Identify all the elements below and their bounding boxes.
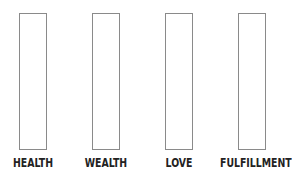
health-label: HEALTH (9, 155, 57, 170)
health-column-box (19, 13, 47, 150)
fulfillment-column-box (238, 13, 266, 150)
love-label: LOVE (155, 155, 203, 170)
fulfillment-label: FULFILLMENT (220, 155, 284, 170)
wealth-label: WEALTH (82, 155, 130, 170)
wealth-column-box (92, 13, 120, 150)
love-column-box (165, 13, 193, 150)
